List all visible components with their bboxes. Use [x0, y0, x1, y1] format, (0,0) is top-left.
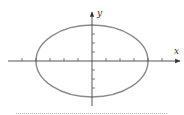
ellipse-diagram: y x: [0, 0, 184, 115]
y-axis-label: y: [96, 8, 103, 18]
x-axis-label: x: [174, 46, 179, 56]
